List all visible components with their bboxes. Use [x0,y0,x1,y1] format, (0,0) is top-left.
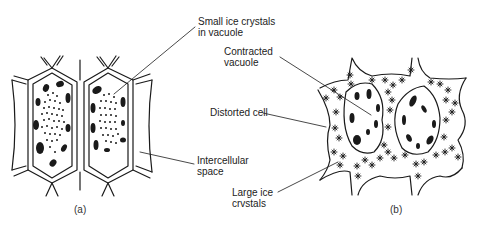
panel-b-drawing [318,58,466,195]
label-line: space [197,166,249,177]
label-line: Intercellular [197,155,249,166]
small-ice-crystals [41,92,119,153]
label-distorted-cell: Distorted cell [210,107,268,118]
label-intercellular-space: Intercellular space [197,155,249,177]
panel-a-drawing [12,56,152,196]
leader-distorted-cell [263,113,326,127]
label-contracted-vacuole: Contracted vacuole [224,46,273,68]
label-small-ice-crystals: Small ice crystals in vacuole [198,16,275,38]
leader-intercellular-space [140,152,194,164]
caption-a: (a) [74,204,86,215]
leader-small-ice [114,27,195,94]
label-line: Large ice [232,187,273,198]
figure: Small ice crystals in vacuole Contracted… [0,0,487,230]
label-large-ice-crystals: Large ice crvstals [232,187,273,209]
label-line: crvstals [232,198,273,209]
label-line: Small ice crystals [198,16,275,27]
label-line: Contracted [224,46,273,57]
label-line: vacuole [224,57,273,68]
caption-b: (b) [390,204,402,215]
leader-large-ice [278,162,338,192]
label-line: in vacuole [198,27,275,38]
label-line: Distorted cell [210,107,268,118]
